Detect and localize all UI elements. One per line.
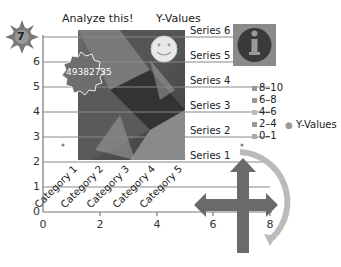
- y-tick-4: 4: [26, 105, 40, 118]
- cross-arrows-icon: [194, 158, 278, 253]
- legend-item-4-6: 4–6: [252, 106, 283, 118]
- x-tick-2: 2: [92, 218, 108, 231]
- chart-title: Analyze this!: [62, 12, 133, 25]
- legend-swatch: [252, 110, 257, 115]
- legend-swatch: [252, 98, 257, 103]
- sun-badge-label: 7: [17, 30, 25, 43]
- series-label-2: Series 2: [190, 125, 230, 136]
- legend-y-values: ● Y-Values: [285, 119, 337, 130]
- legend-item-8-10: 8–10: [252, 82, 283, 94]
- chart-canvas: [0, 0, 341, 267]
- legend-item-0-1: 0–1: [252, 130, 283, 142]
- legend-swatch: [252, 86, 257, 91]
- series-label-3: Series 3: [190, 100, 230, 111]
- info-icon: [233, 24, 276, 66]
- y-tick-3: 3: [26, 130, 40, 143]
- x-tick-4: 4: [149, 218, 165, 231]
- y-tick-2: 2: [26, 155, 40, 168]
- legend: 8–10 6–8 4–6 2–4 0–1: [252, 82, 283, 142]
- series-label-4: Series 4: [190, 75, 230, 86]
- y-values-title: Y-Values: [156, 12, 201, 25]
- y-tick-1: 1: [26, 180, 40, 193]
- gear-badge-label: 49382735: [66, 67, 112, 77]
- x-tick-0: 0: [35, 218, 51, 231]
- x-tick-8: 8: [262, 218, 278, 231]
- y-tick-5: 5: [26, 80, 40, 93]
- legend-item-2-4: 2–4: [252, 118, 283, 130]
- legend-marker-dot: ●: [285, 120, 293, 130]
- series-label-1: Series 1: [190, 150, 230, 161]
- x-tick-6: 6: [205, 218, 221, 231]
- legend-item-6-8: 6–8: [252, 94, 283, 106]
- legend-swatch: [252, 122, 257, 127]
- y-tick-6: 6: [26, 55, 40, 68]
- legend-swatch: [252, 134, 257, 139]
- series-label-5: Series 5: [190, 50, 230, 61]
- series-label-6: Series 6: [190, 25, 230, 36]
- smiley-icon: [151, 36, 177, 62]
